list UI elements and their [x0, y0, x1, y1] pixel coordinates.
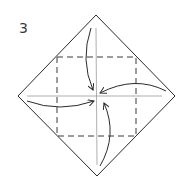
fold-bottom-corner-arrow [100, 103, 110, 166]
fold-diagram-canvas [0, 0, 186, 187]
vertical-center-crease [96, 28, 97, 165]
fold-left-corner-arrow [27, 101, 94, 107]
fold-top-corner-arrow [86, 28, 93, 90]
fold-right-corner-arrow [100, 83, 166, 93]
